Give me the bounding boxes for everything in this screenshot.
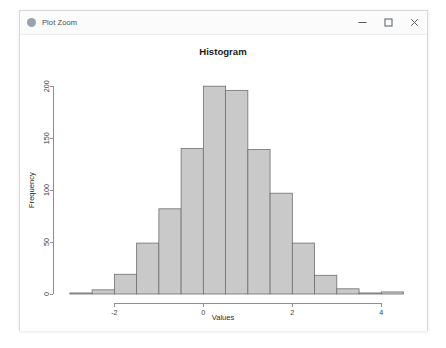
plot-zoom-window: Plot Zoom Histogram xyxy=(19,10,428,331)
histogram-bar xyxy=(359,293,381,294)
title-bar: Plot Zoom xyxy=(20,11,427,35)
histogram-bar xyxy=(270,193,292,294)
x-axis: -2024 xyxy=(111,303,383,317)
plot-canvas: Histogram 050100150200 -2024 Frequency V… xyxy=(20,35,427,331)
close-icon[interactable] xyxy=(401,11,427,35)
histogram-bar xyxy=(203,86,225,294)
y-tick-label: 0 xyxy=(42,292,51,296)
x-tick-label: 4 xyxy=(379,308,383,317)
chart-title: Histogram xyxy=(199,46,246,57)
histogram-bar xyxy=(137,243,159,294)
x-axis-title: Values xyxy=(212,313,235,322)
x-tick-label: 2 xyxy=(290,308,294,317)
y-tick-label: 100 xyxy=(42,184,51,196)
circle-icon xyxy=(27,18,36,27)
bars-group xyxy=(70,86,404,294)
histogram-chart: Histogram 050100150200 -2024 Frequency V… xyxy=(20,35,427,331)
maximize-icon[interactable] xyxy=(375,11,401,35)
histogram-bar xyxy=(315,275,337,294)
histogram-bar xyxy=(70,293,92,294)
histogram-bar xyxy=(337,289,359,294)
y-axis-title: Frequency xyxy=(27,172,36,208)
y-axis: 050100150200 xyxy=(42,80,53,296)
histogram-bar xyxy=(226,90,248,294)
histogram-bar xyxy=(181,149,203,294)
histogram-bar xyxy=(159,209,181,294)
histogram-bar xyxy=(381,292,403,294)
window-controls xyxy=(349,11,427,34)
x-tick-label: 0 xyxy=(201,308,205,317)
histogram-bar xyxy=(114,274,136,294)
window-title: Plot Zoom xyxy=(42,18,77,27)
x-tick-label: -2 xyxy=(111,308,117,317)
y-tick-label: 200 xyxy=(42,80,51,92)
histogram-bar xyxy=(92,290,114,294)
y-tick-label: 150 xyxy=(42,132,51,144)
minimize-icon[interactable] xyxy=(349,11,375,35)
histogram-bar xyxy=(248,150,270,294)
y-tick-label: 50 xyxy=(42,238,51,246)
histogram-bar xyxy=(292,243,314,294)
